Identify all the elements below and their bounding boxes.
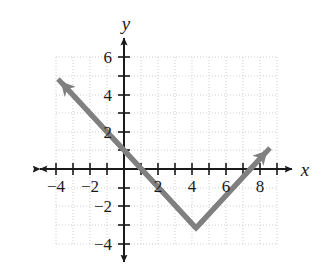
y-axis-label: y [120,13,131,34]
x-tick-label-neg2: −2 [81,177,99,196]
y-tick-label-2: 2 [104,123,113,142]
x-tick-label-4: 4 [188,177,197,196]
x-axis-label: x [300,159,310,180]
y-tick-label-neg4: −4 [94,235,113,254]
coordinate-plane-svg: −4 −2 2 4 6 8 6 4 2 −2 −4 x y [0,0,331,274]
y-tick-label-6: 6 [104,48,113,67]
y-tick-label-4: 4 [104,86,113,105]
x-tick-label-neg4: −4 [47,177,66,196]
graph-figure: −4 −2 2 4 6 8 6 4 2 −2 −4 x y [0,0,331,274]
y-tick-label-neg2: −2 [94,197,112,216]
x-tick-label-8: 8 [256,177,265,196]
grid-lines [56,57,277,244]
x-tick-label-2: 2 [154,177,163,196]
x-tick-label-6: 6 [222,177,231,196]
